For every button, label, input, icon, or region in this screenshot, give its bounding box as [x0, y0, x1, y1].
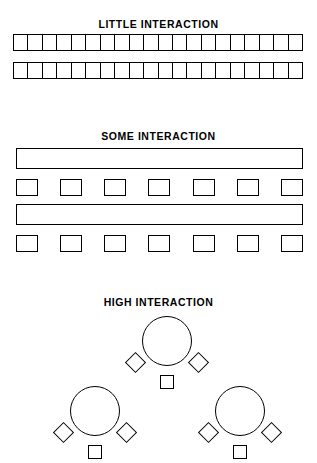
desk-cell	[260, 63, 274, 78]
seat-square	[148, 235, 170, 252]
seat-square	[16, 179, 38, 196]
seat-square	[16, 235, 38, 252]
desk-cell	[86, 35, 100, 50]
desk-cell	[43, 35, 57, 50]
seat-square	[60, 179, 82, 196]
round-table-cluster	[190, 386, 290, 463]
desk-cell	[260, 35, 274, 50]
diamond-seat	[188, 352, 209, 373]
desk-cell	[159, 63, 173, 78]
desk-cell	[173, 63, 187, 78]
long-table	[16, 148, 303, 169]
seat-square	[193, 235, 215, 252]
section-title-high-interaction: HIGH INTERACTION	[0, 296, 317, 308]
desk-cell	[14, 35, 28, 50]
desk-cell	[72, 63, 86, 78]
seat-square	[148, 179, 170, 196]
desk-cell	[231, 35, 245, 50]
section-title-little-interaction: LITTLE INTERACTION	[0, 18, 317, 30]
desk-row	[13, 34, 303, 51]
seat-square	[193, 179, 215, 196]
desk-cell	[289, 63, 302, 78]
desk-cell	[187, 35, 201, 50]
diamond-seat	[125, 352, 146, 373]
desk-cell	[57, 63, 71, 78]
desk-cell	[274, 63, 288, 78]
desk-cell	[57, 35, 71, 50]
round-table	[70, 386, 120, 436]
desk-cell	[202, 35, 216, 50]
seat-square	[160, 375, 174, 389]
desk-cell	[115, 35, 129, 50]
desk-cell	[245, 63, 259, 78]
seat-row	[16, 235, 303, 252]
desk-cell	[101, 35, 115, 50]
seat-square	[233, 445, 247, 459]
desk-cell	[274, 35, 288, 50]
round-table	[142, 316, 192, 366]
desk-cell	[173, 35, 187, 50]
desk-cell	[101, 63, 115, 78]
desk-cell	[289, 35, 302, 50]
desk-cell	[144, 63, 158, 78]
desk-cell	[216, 35, 230, 50]
desk-cell	[14, 63, 28, 78]
desk-cell	[187, 63, 201, 78]
seat-row	[16, 179, 303, 196]
desk-cell	[144, 35, 158, 50]
desk-cell	[130, 35, 144, 50]
long-table	[16, 204, 303, 225]
desk-cell	[43, 63, 57, 78]
desk-cell	[28, 35, 42, 50]
desk-row	[13, 62, 303, 79]
section-title-some-interaction: SOME INTERACTION	[0, 130, 317, 142]
seat-square	[104, 235, 126, 252]
desk-cell	[216, 63, 230, 78]
diamond-seat	[261, 422, 282, 443]
desk-cell	[130, 63, 144, 78]
seat-square	[88, 445, 102, 459]
desk-cell	[28, 63, 42, 78]
seat-square	[281, 235, 303, 252]
desk-cell	[86, 63, 100, 78]
diamond-seat	[116, 422, 137, 443]
desk-cell	[202, 63, 216, 78]
desk-cell	[159, 35, 173, 50]
seat-square	[104, 179, 126, 196]
seat-square	[237, 179, 259, 196]
diamond-seat	[53, 422, 74, 443]
desk-cell	[72, 35, 86, 50]
desk-cell	[245, 35, 259, 50]
round-table	[215, 386, 265, 436]
desk-cell	[115, 63, 129, 78]
round-table-cluster	[45, 386, 145, 463]
desk-cell	[231, 63, 245, 78]
seat-square	[237, 235, 259, 252]
seat-square	[281, 179, 303, 196]
seat-square	[60, 235, 82, 252]
diamond-seat	[198, 422, 219, 443]
